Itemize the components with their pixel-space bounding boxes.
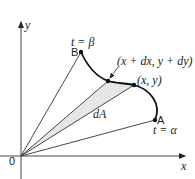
point-Q-label: (x + dx, y + dy) bbox=[117, 54, 193, 68]
polar-area-diagram: y x 0 B t = β A t = α (x, y) (x + dx, y … bbox=[0, 0, 195, 179]
x-axis-label: x bbox=[180, 159, 187, 173]
point-P-label: (x, y) bbox=[137, 73, 162, 87]
ray-to-P bbox=[21, 85, 134, 156]
leader-arrow-Q bbox=[110, 67, 118, 78]
point-B bbox=[79, 50, 83, 54]
point-Q bbox=[106, 79, 110, 83]
y-axis-label: y bbox=[24, 18, 31, 32]
origin-label: 0 bbox=[9, 155, 15, 167]
ray-to-A bbox=[21, 120, 155, 156]
area-element-dA bbox=[21, 81, 134, 156]
point-B-param: t = β bbox=[71, 35, 94, 49]
point-P bbox=[132, 83, 136, 87]
area-label-dA: dA bbox=[93, 107, 107, 121]
point-A-param: t = α bbox=[153, 123, 177, 137]
ray-to-B bbox=[21, 52, 81, 156]
